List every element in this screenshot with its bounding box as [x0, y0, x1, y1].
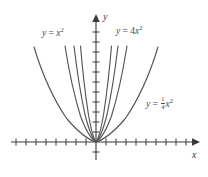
- x-axis-label: x: [192, 150, 196, 160]
- curve-label-4x-squared: y = 4x2: [116, 25, 143, 37]
- x-axis-arrowhead: [192, 138, 200, 145]
- curve-label-quarter-x-squared-exp: 2: [170, 97, 173, 104]
- curve-label-x-squared: y = x2: [42, 27, 64, 39]
- curve-label-x-squared-exp: 2: [61, 26, 64, 33]
- curve-label-quarter-x-squared-lhs: y: [146, 99, 150, 109]
- fraction-one-quarter: 14: [161, 96, 165, 111]
- curve-label-4x-squared-lhs: y: [116, 26, 120, 36]
- parabola-family-figure: y = x2 y = 4x2 y = 14x2 y x: [0, 0, 208, 177]
- curve-label-4x-squared-eq: =: [123, 26, 128, 36]
- y-axis-arrowhead: [92, 14, 99, 22]
- coordinate-plot: [0, 0, 208, 177]
- axes-group: [11, 14, 200, 160]
- curve-label-quarter-x-squared: y = 14x2: [146, 96, 173, 111]
- curve-label-quarter-x-squared-eq: =: [153, 99, 158, 109]
- y-axis-label: y: [103, 12, 107, 22]
- curve-label-x-squared-eq: =: [49, 28, 54, 38]
- fraction-denominator: 4: [161, 104, 165, 111]
- curve-label-4x-squared-exp: 2: [139, 24, 142, 31]
